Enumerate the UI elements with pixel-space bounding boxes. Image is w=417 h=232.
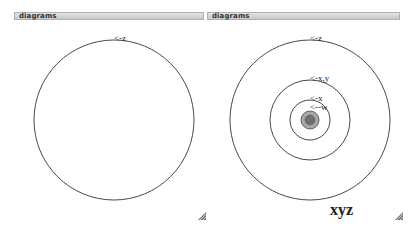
- diagram-panel-left: diagrams <-z: [0, 0, 207, 232]
- disc-w-inner: [305, 115, 315, 125]
- diagram-panel-right: diagrams <-z <-x,y <-x <--w xyz: [207, 0, 417, 232]
- circle-z: [34, 40, 194, 200]
- diagram-canvas: <-z: [0, 0, 207, 232]
- diagram-canvas: <-z <-x,y <-x <--w xyz: [207, 0, 417, 232]
- resize-grip-icon[interactable]: [198, 212, 206, 220]
- label-w: <--w: [310, 102, 328, 112]
- caption-xyz: xyz: [330, 201, 353, 219]
- label-z: <-z: [310, 33, 322, 43]
- resize-grip-icon[interactable]: [395, 212, 403, 220]
- label-xy: <-x,y: [310, 73, 330, 83]
- label-z: <-z: [114, 33, 126, 43]
